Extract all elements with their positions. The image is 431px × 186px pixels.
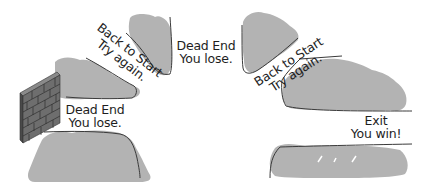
dead-end-left-subtitle: You lose. xyxy=(62,116,128,129)
exit-subtitle: You win! xyxy=(344,127,408,140)
brick-wall-icon xyxy=(20,72,60,143)
dead-end-left-label: Dead End You lose. xyxy=(62,103,128,129)
hedge-left-lower xyxy=(28,131,151,182)
maze-illustration xyxy=(0,0,431,186)
exit-label: Exit You win! xyxy=(344,114,408,140)
dead-end-top-subtitle: You lose. xyxy=(174,52,238,65)
hedge-right-lower xyxy=(270,144,412,178)
dead-end-top-label: Dead End You lose. xyxy=(174,39,238,65)
